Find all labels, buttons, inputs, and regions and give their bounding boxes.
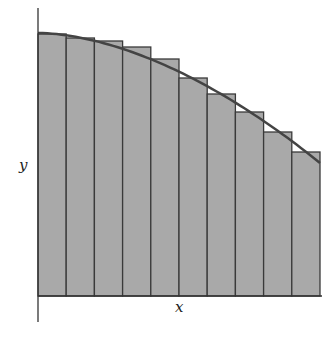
- rectangle: [123, 47, 151, 296]
- x-axis-label: x: [175, 298, 183, 316]
- rectangle: [264, 132, 292, 296]
- rectangle: [94, 41, 122, 296]
- rectangle: [207, 94, 235, 296]
- y-axis-label: y: [19, 156, 27, 174]
- rectangle: [151, 59, 179, 296]
- riemann-sum-diagram: [0, 0, 336, 341]
- rectangle: [38, 34, 66, 296]
- rectangle: [292, 152, 320, 296]
- rectangle: [66, 38, 94, 296]
- rectangle: [235, 112, 263, 296]
- rectangles: [38, 34, 320, 296]
- rectangle: [179, 78, 207, 296]
